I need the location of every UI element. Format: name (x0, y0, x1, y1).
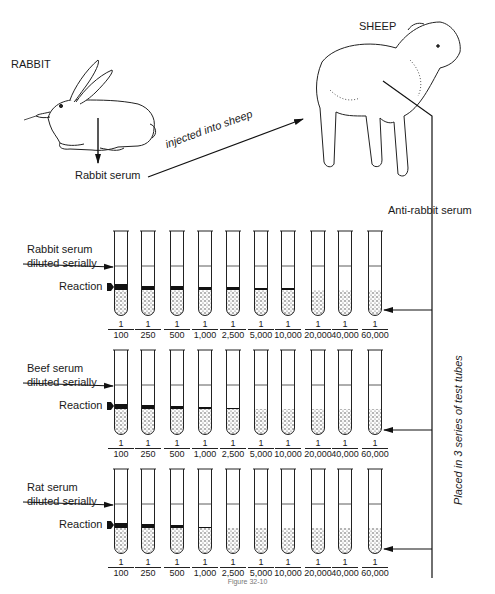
dilution-label: 1500 (163, 438, 191, 459)
dilution-denominator: 20,000 (304, 330, 332, 340)
dilution-label: 160,000 (361, 319, 389, 340)
dilution-numerator: 1 (107, 438, 135, 448)
dilution-denominator: 500 (163, 330, 191, 340)
dilution-label: 1100 (107, 319, 135, 340)
dilution-label: 110,000 (274, 438, 302, 459)
test-tube (197, 231, 213, 316)
dilution-numerator: 1 (361, 319, 389, 329)
dilution-numerator: 1 (107, 319, 135, 329)
dilution-denominator: 100 (107, 568, 135, 578)
reaction-band (199, 527, 212, 528)
test-tube (367, 350, 383, 435)
reaction-band (171, 286, 184, 290)
dilution-label: 1250 (134, 557, 162, 578)
dilution-denominator: 60,000 (361, 568, 389, 578)
reaction-pointer-icon (107, 283, 114, 291)
dilution-numerator: 1 (361, 438, 389, 448)
dilution-label: 1500 (163, 557, 191, 578)
dilution-denominator: 250 (134, 449, 162, 459)
test-tube (225, 469, 241, 554)
dilution-label: 160,000 (361, 438, 389, 459)
dilution-label: 110,000 (274, 557, 302, 578)
dilution-label: 120,000 (304, 319, 332, 340)
dilution-denominator: 500 (163, 449, 191, 459)
reaction-band (115, 284, 128, 290)
dilution-denominator: 100 (107, 449, 135, 459)
dilution-label: 120,000 (304, 438, 332, 459)
test-tube (367, 231, 383, 316)
dilution-label: 120,000 (304, 557, 332, 578)
dilution-numerator: 1 (107, 557, 135, 567)
reaction-band (199, 287, 212, 290)
dilution-label: 140,000 (331, 319, 359, 340)
sheep-illustration (317, 22, 461, 176)
dilution-denominator: 20,000 (304, 449, 332, 459)
dilution-numerator: 1 (331, 319, 359, 329)
dilution-denominator: 5,000 (247, 568, 275, 578)
dilution-denominator: 20,000 (304, 568, 332, 578)
dilution-numerator: 1 (331, 438, 359, 448)
test-tube (253, 469, 269, 554)
dilution-denominator: 10,000 (274, 330, 302, 340)
serum-label-sub: diluted serially (27, 495, 97, 508)
test-tube (280, 350, 296, 435)
dilution-denominator: 60,000 (361, 330, 389, 340)
dilution-numerator: 1 (361, 557, 389, 567)
dilution-label: 15,000 (247, 438, 275, 459)
dilution-denominator: 1,000 (191, 330, 219, 340)
dilution-numerator: 1 (134, 319, 162, 329)
dilution-denominator: 10,000 (274, 568, 302, 578)
test-tube (280, 231, 296, 316)
dilution-denominator: 2,500 (219, 568, 247, 578)
dilution-label: 1250 (134, 319, 162, 340)
test-tube (225, 350, 241, 435)
reaction-band (282, 288, 295, 290)
reaction-label: Reaction (59, 399, 102, 412)
dilution-numerator: 1 (163, 319, 191, 329)
dilution-denominator: 10,000 (274, 449, 302, 459)
test-tube (169, 350, 185, 435)
reaction-label: Reaction (59, 280, 102, 293)
dilution-numerator: 1 (219, 438, 247, 448)
test-tube (337, 469, 353, 554)
dilution-label: 12,500 (219, 557, 247, 578)
serum-label: Rat serum (27, 481, 78, 494)
dilution-denominator: 1,000 (191, 449, 219, 459)
dilution-numerator: 1 (134, 438, 162, 448)
dilution-denominator: 5,000 (247, 449, 275, 459)
dilution-label: 1500 (163, 319, 191, 340)
test-tube (310, 469, 326, 554)
dilution-numerator: 1 (219, 319, 247, 329)
reaction-band (199, 407, 212, 409)
anti-serum-label: Anti-rabbit serum (388, 204, 472, 217)
dilution-numerator: 1 (163, 557, 191, 567)
rabbit-illustration (24, 60, 156, 150)
test-tube (310, 350, 326, 435)
dilution-numerator: 1 (247, 557, 275, 567)
dilution-denominator: 100 (107, 330, 135, 340)
dilution-denominator: 60,000 (361, 449, 389, 459)
dilution-numerator: 1 (219, 557, 247, 567)
test-tube (140, 350, 156, 435)
sheep-label: SHEEP (359, 20, 396, 33)
dilution-denominator: 40,000 (331, 449, 359, 459)
reaction-band (142, 524, 155, 528)
test-tube (113, 350, 129, 435)
test-tube (337, 350, 353, 435)
test-tube (140, 469, 156, 554)
test-tube (140, 231, 156, 316)
reaction-band (255, 288, 268, 290)
reaction-band (115, 523, 128, 528)
reaction-band (227, 408, 240, 409)
rabbit-label: RABBIT (11, 58, 51, 71)
test-tube (225, 231, 241, 316)
dilution-label: 110,000 (274, 319, 302, 340)
dilution-label: 11,000 (191, 319, 219, 340)
test-tube (367, 469, 383, 554)
dilution-label: 12,500 (219, 319, 247, 340)
dilution-denominator: 1,000 (191, 568, 219, 578)
reaction-band (227, 287, 240, 290)
dilution-denominator: 2,500 (219, 449, 247, 459)
reaction-band (142, 286, 155, 290)
figure-caption: Figure 32-10 (0, 578, 495, 585)
